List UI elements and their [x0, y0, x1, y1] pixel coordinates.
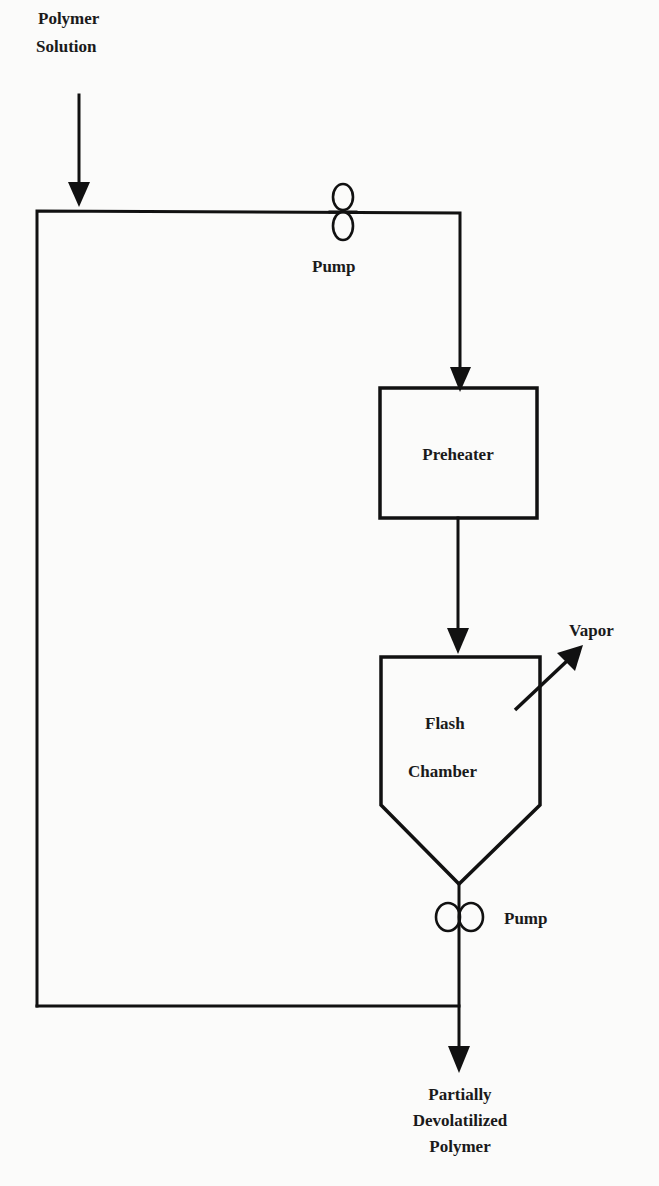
- feed-arrow: [68, 95, 90, 207]
- preheater-label: Preheater: [422, 445, 494, 464]
- product-label-line2: Devolatilized: [413, 1111, 508, 1130]
- recycle-loop-line: [37, 211, 460, 1006]
- feed-label-line2: Solution: [36, 37, 97, 56]
- pump-bottom-label: Pump: [504, 909, 547, 928]
- process-flow-diagram: Polymer Solution Pump Preheater Flash Ch…: [0, 0, 659, 1186]
- flash-label-line1: Flash: [425, 714, 465, 733]
- vapor-label: Vapor: [569, 621, 614, 640]
- feed-label-line1: Polymer: [38, 9, 100, 28]
- pump-top-label: Pump: [312, 257, 355, 276]
- flash-label-line2: Chamber: [408, 762, 477, 781]
- vapor-outlet-arrow: [515, 645, 583, 710]
- product-label-line3: Polymer: [429, 1137, 491, 1156]
- pump-top-icon: [330, 184, 356, 240]
- preheater-to-flash-arrow: [447, 518, 469, 654]
- product-label-line1: Partially: [428, 1085, 492, 1104]
- product-outlet-arrow: [448, 1046, 470, 1073]
